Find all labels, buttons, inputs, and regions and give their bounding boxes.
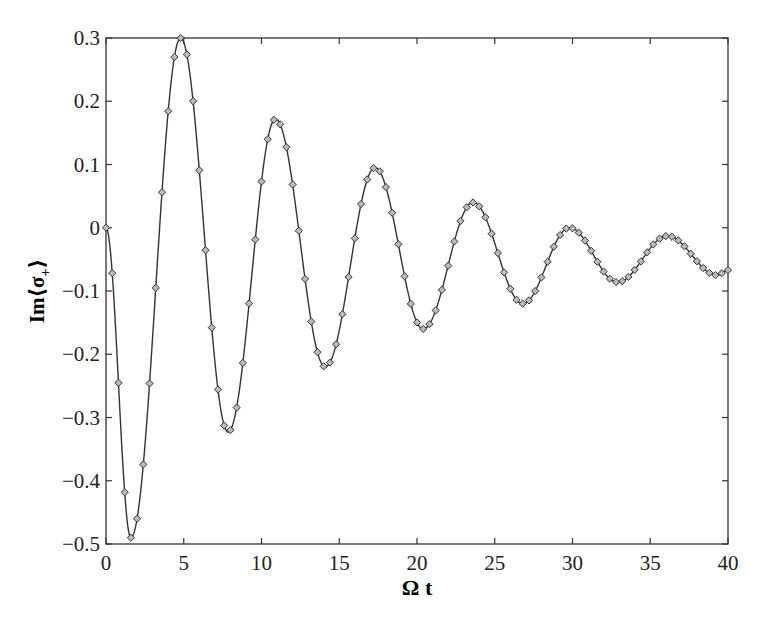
diamond-marker [165, 108, 172, 115]
x-tick-label: 25 [484, 551, 505, 575]
diamond-marker [289, 181, 296, 188]
diamond-marker [134, 515, 141, 522]
y-tick-label: 0.3 [74, 26, 100, 50]
diamond-marker [233, 404, 240, 411]
chart: 0510152025303540−0.5−0.4−0.3−0.2−0.100.1… [0, 0, 774, 622]
diamond-marker [519, 300, 526, 307]
diamond-marker [158, 189, 165, 196]
diamond-marker [544, 258, 551, 265]
diamond-marker [295, 227, 302, 234]
diamond-marker [482, 214, 489, 221]
x-tick-label: 20 [407, 551, 428, 575]
diamond-marker [407, 300, 414, 307]
diamond-marker [301, 275, 308, 282]
diamond-marker [507, 285, 514, 292]
diamond-marker [221, 422, 228, 429]
diamond-marker [146, 380, 153, 387]
diamond-marker [413, 319, 420, 326]
diamond-marker [183, 51, 190, 58]
diamond-marker [494, 249, 501, 256]
diamond-marker [488, 230, 495, 237]
diamond-marker [239, 359, 246, 366]
diamond-marker [357, 200, 364, 207]
y-tick-label: 0.2 [74, 89, 100, 113]
diamond-marker [469, 199, 476, 206]
diamond-marker [401, 273, 408, 280]
diamond-marker [382, 184, 389, 191]
x-axis-label: Ω t [402, 575, 433, 600]
diamond-marker [668, 233, 675, 240]
diamond-marker [550, 243, 557, 250]
diamond-marker [171, 53, 178, 60]
diamond-marker [252, 236, 259, 243]
diamond-marker [619, 278, 626, 285]
diamond-marker [438, 286, 445, 293]
diamond-marker [102, 224, 109, 231]
x-tick-label: 15 [329, 551, 350, 575]
x-tick-label: 35 [640, 551, 661, 575]
diamond-marker [109, 270, 116, 277]
diamond-marker [612, 278, 619, 285]
diamond-marker [121, 489, 128, 496]
svg-text:Im⟨σ+⟩: Im⟨σ+⟩ [25, 259, 53, 323]
diamond-marker [457, 217, 464, 224]
diamond-marker [500, 269, 507, 276]
data-markers [102, 34, 731, 541]
y-tick-label: −0.1 [62, 279, 100, 303]
diamond-marker [115, 379, 122, 386]
x-tick-label: 40 [718, 551, 739, 575]
diamond-marker [140, 461, 147, 468]
data-line [106, 38, 728, 538]
y-axis-label: Im⟨σ+⟩ [25, 259, 53, 323]
diamond-marker [270, 116, 277, 123]
x-tick-label: 5 [179, 551, 190, 575]
diamond-marker [264, 136, 271, 143]
diamond-marker [395, 241, 402, 248]
diamond-marker [208, 324, 215, 331]
diamond-marker [532, 287, 539, 294]
diamond-marker [538, 274, 545, 281]
diamond-marker [420, 325, 427, 332]
diamond-marker [333, 341, 340, 348]
diamond-marker [364, 176, 371, 183]
diamond-marker [196, 167, 203, 174]
diamond-marker [588, 247, 595, 254]
diamond-marker [277, 121, 284, 128]
diamond-marker [432, 307, 439, 314]
diamond-marker [189, 98, 196, 105]
diamond-marker [308, 318, 315, 325]
diamond-marker [351, 235, 358, 242]
axes-box: 0510152025303540−0.5−0.4−0.3−0.2−0.100.1… [62, 26, 739, 575]
diamond-marker [152, 284, 159, 291]
diamond-marker [345, 273, 352, 280]
diamond-marker [258, 178, 265, 185]
y-tick-label: −0.5 [62, 532, 100, 556]
diamond-marker [569, 225, 576, 232]
y-tick-label: −0.2 [62, 342, 100, 366]
diamond-marker [214, 386, 221, 393]
diamond-marker [389, 209, 396, 216]
x-tick-label: 10 [251, 551, 272, 575]
diamond-marker [245, 300, 252, 307]
diamond-marker [339, 311, 346, 318]
diamond-marker [445, 262, 452, 269]
y-tick-label: 0.1 [74, 153, 100, 177]
diamond-marker [283, 143, 290, 150]
y-tick-label: −0.3 [62, 406, 100, 430]
diamond-marker [451, 238, 458, 245]
x-tick-label: 0 [101, 551, 112, 575]
y-tick-label: −0.4 [62, 469, 101, 493]
y-tick-label: 0 [90, 216, 101, 240]
x-tick-label: 30 [562, 551, 583, 575]
diamond-marker [594, 258, 601, 265]
diamond-marker [202, 247, 209, 254]
diamond-marker [314, 349, 321, 356]
